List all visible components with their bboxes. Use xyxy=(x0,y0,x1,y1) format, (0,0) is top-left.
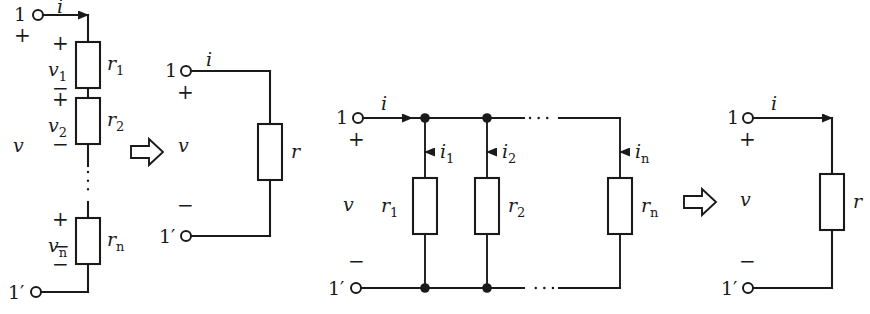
par-port-plus-sign: + xyxy=(348,127,365,151)
circuit-series-network: 1 i + v − r1 + v1 − r2 + v2 − rn + vn − xyxy=(8,0,125,303)
eq2-terminal-circle-top[interactable] xyxy=(743,113,753,123)
eq2-port-plus-sign: + xyxy=(739,127,756,151)
resistor-r2-label: r2 xyxy=(107,108,124,134)
par-resistor-r2-label: r2 xyxy=(508,194,525,220)
implies-arrow-icon-1 xyxy=(131,139,163,165)
v1-plus-sign: + xyxy=(52,31,69,55)
figure-canvas: 1 i + v − r1 + v1 − r2 + v2 − rn + vn − xyxy=(0,0,870,314)
eq1-terminal-label-bottom: 1′ xyxy=(159,225,175,247)
terminal-label-bottom-1prime: 1′ xyxy=(8,281,24,303)
par-terminal-circle-top[interactable] xyxy=(353,113,363,123)
par-port-voltage-label: v xyxy=(343,193,354,215)
eq2-terminal-label-top: 1 xyxy=(727,106,739,128)
par-terminal-circle-bottom[interactable] xyxy=(351,283,361,293)
par-current-label: i xyxy=(381,92,387,114)
par-port-minus-sign: − xyxy=(348,249,365,273)
eq2-resistor-box[interactable] xyxy=(820,174,844,230)
port-plus-sign: + xyxy=(14,23,31,47)
par-resistor-r2-box[interactable] xyxy=(475,178,499,234)
eq1-port-plus-sign: + xyxy=(177,80,194,104)
branch-current-i2-label: i2 xyxy=(502,140,516,166)
eq2-port-voltage-label: v xyxy=(740,188,751,210)
resistor-rn-label: rn xyxy=(107,228,125,254)
eq2-current-label: i xyxy=(771,92,777,114)
eq1-resistor-box[interactable] xyxy=(258,124,282,180)
resistor-r2-box[interactable] xyxy=(76,98,100,144)
par-terminal-label-bottom: 1′ xyxy=(328,277,344,299)
par-resistor-r1-label: r1 xyxy=(381,194,398,220)
resistor-r1-label: r1 xyxy=(107,52,124,78)
resistor-r1-box[interactable] xyxy=(76,42,100,88)
eq1-port-voltage-label: v xyxy=(178,134,189,156)
eq1-terminal-circle-bottom[interactable] xyxy=(181,231,191,241)
eq1-terminal-label-top: 1 xyxy=(165,59,177,81)
eq1-terminal-circle-top[interactable] xyxy=(181,66,191,76)
terminal-circle-top[interactable] xyxy=(33,10,43,20)
par-resistor-rn-label: rn xyxy=(641,194,659,220)
circuit-parallel-network: 1 i + v − i1 r1 i2 r2 in rn xyxy=(328,92,659,299)
branch-current-in-label: in xyxy=(635,140,650,166)
eq1-port-minus-sign: − xyxy=(177,193,194,217)
eq1-resistor-label: r xyxy=(291,140,302,162)
branch-current-i1-label: i1 xyxy=(440,140,454,166)
v2-plus-sign: + xyxy=(52,87,69,111)
par-resistor-r1-box[interactable] xyxy=(413,178,437,234)
terminal-circle-bottom[interactable] xyxy=(31,287,41,297)
eq2-resistor-label: r xyxy=(853,190,864,212)
eq2-terminal-circle-bottom[interactable] xyxy=(743,283,753,293)
eq2-terminal-label-bottom: 1′ xyxy=(721,277,737,299)
implies-arrow-icon-2 xyxy=(684,189,716,215)
circuit-parallel-equivalent: 1 i + v − r 1′ xyxy=(721,92,864,299)
par-terminal-label-top: 1 xyxy=(336,106,348,128)
eq1-current-label: i xyxy=(206,48,212,70)
v2-minus-sign: − xyxy=(52,132,69,156)
vn-plus-sign: + xyxy=(52,207,69,231)
par-resistor-rn-box[interactable] xyxy=(608,178,632,234)
eq2-port-minus-sign: − xyxy=(739,249,756,273)
terminal-label-top-1: 1 xyxy=(14,3,26,25)
resistor-rn-box[interactable] xyxy=(76,218,100,264)
vn-minus-sign: − xyxy=(52,252,69,276)
port-voltage-label: v xyxy=(13,134,24,156)
circuit-series-equivalent: 1 i + v − r 1′ xyxy=(159,48,302,247)
circuit-diagram-svg: 1 i + v − r1 + v1 − r2 + v2 − rn + vn − xyxy=(0,0,870,314)
